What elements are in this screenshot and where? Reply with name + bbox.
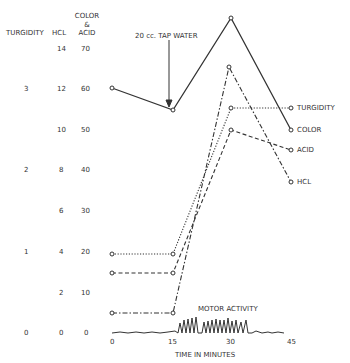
series-turgidity-line: [112, 108, 291, 254]
series-label-color: COLOR: [297, 126, 321, 134]
x-tick: 45: [287, 338, 296, 346]
series-acid-line: [112, 130, 291, 273]
motor-activity-trace: [112, 317, 284, 333]
motor-activity-annotation: MOTOR ACTIVITY: [198, 305, 258, 313]
x-tick: 30: [226, 338, 235, 346]
series-label-acid: ACID: [297, 146, 314, 154]
series-label-turgidity: TURGIDITY: [297, 104, 335, 112]
series-label-hcl: HCL: [297, 178, 311, 186]
x-tick: 0: [110, 338, 114, 346]
tap-water-annotation: 20 cc. TAP WATER: [135, 32, 198, 40]
tap-water-arrow: [166, 40, 172, 107]
x-axis-label: TIME IN MINUTES: [175, 351, 235, 359]
series-hcl-line: [112, 67, 291, 313]
x-tick: 15: [168, 338, 177, 346]
